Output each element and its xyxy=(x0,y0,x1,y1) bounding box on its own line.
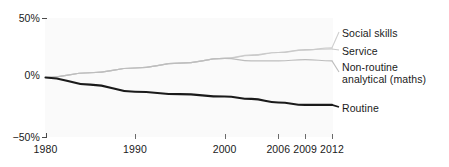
x-axis-tick-label-2006: 2006 xyxy=(266,143,290,155)
y-axis-tick-label-50: 50% xyxy=(0,12,40,24)
x-axis-tick-mark-2006 xyxy=(278,134,279,139)
legend-leader-line xyxy=(332,32,339,48)
x-axis-tick-label-2012: 2012 xyxy=(320,143,344,155)
legend-label-non-routine-line2: analytical (maths) xyxy=(342,73,426,85)
x-axis-tick-mark-2012 xyxy=(332,134,333,139)
y-axis-tick-label-0: 0% xyxy=(0,69,40,81)
legend-leader-line xyxy=(332,105,339,107)
x-axis-tick-mark-2009 xyxy=(305,134,306,139)
series-line-non-routine-analytical-maths xyxy=(46,58,333,77)
chart-figure: 50% 0% −50% 198019902000200620092012 Soc… xyxy=(0,0,449,167)
legend-label-non-routine-line1: Non-routine xyxy=(342,61,426,73)
x-axis-origin-tick-mark xyxy=(46,133,47,138)
legend-label-social-skills: Social skills xyxy=(342,27,398,39)
x-axis-tick-label-1990: 1990 xyxy=(123,143,147,155)
x-axis-tick-mark-1990 xyxy=(135,134,136,139)
legend-label-non-routine-analytical: Non-routine analytical (maths) xyxy=(342,61,426,85)
y-axis-tick-mark-50 xyxy=(42,18,47,19)
x-axis-tick-label-2000: 2000 xyxy=(213,143,237,155)
legend-label-routine: Routine xyxy=(342,102,379,114)
legend-leader-line xyxy=(332,61,339,72)
y-axis-tick-label-minus50: −50% xyxy=(0,131,40,143)
legend-leader-line xyxy=(332,49,339,50)
series-line-routine xyxy=(46,78,333,105)
legend-label-service: Service xyxy=(342,45,378,57)
x-axis-tick-mark-2000 xyxy=(225,134,226,139)
x-axis-tick-label-2009: 2009 xyxy=(293,143,317,155)
x-axis-tick-label-1980: 1980 xyxy=(34,143,58,155)
